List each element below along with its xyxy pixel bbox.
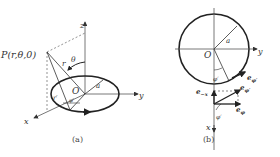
e-phi-prime-circle-label: eφ′ — [247, 73, 258, 84]
figure-a: P(r,θ,0) z y x r θ O a r′ φ′ (a) — [0, 21, 144, 144]
r-prime-label: r′ — [53, 94, 58, 102]
theta-label: θ — [71, 55, 76, 64]
r-label: r — [62, 59, 66, 68]
r-prime-line — [47, 52, 70, 110]
point-p-label: P(r,θ,0) — [0, 49, 36, 60]
x-axis-label: x — [24, 117, 29, 126]
phi-prime-lower-label: φ′ — [216, 113, 222, 121]
e-phi-label: eφ — [236, 105, 245, 116]
radius-a-line — [85, 80, 103, 94]
e-phi-prime-label: eφ′ — [240, 83, 251, 94]
e-minus-x-label: e−x — [196, 87, 209, 97]
phi-prime-label: φ′ — [69, 97, 75, 104]
phi-prime-label-b: φ′ — [213, 75, 219, 83]
x-axis-label-b: x — [206, 123, 211, 132]
figure-b: y O a φ′ eφ′ e−x eφ′ eφ φ′ x (b) — [175, 8, 263, 150]
dashed-line-p-to-z — [47, 33, 85, 52]
radius-a-label-b: a — [226, 37, 230, 45]
origin-label: O — [72, 86, 80, 96]
caption-a: (a) — [72, 135, 83, 144]
caption-b: (b) — [203, 135, 214, 144]
y-axis-label-b: y — [257, 47, 263, 56]
phi-prime-arc — [214, 68, 222, 70]
radius-a-label: a — [96, 82, 100, 90]
z-axis-label: z — [79, 21, 85, 30]
y-axis-label: y — [138, 91, 144, 100]
diagram-canvas: P(r,θ,0) z y x r θ O a r′ φ′ (a) — [0, 0, 280, 157]
phi-prime-arc-lower — [216, 104, 221, 110]
origin-label-b: O — [204, 50, 212, 60]
e-phi-prime-vector — [214, 90, 240, 104]
